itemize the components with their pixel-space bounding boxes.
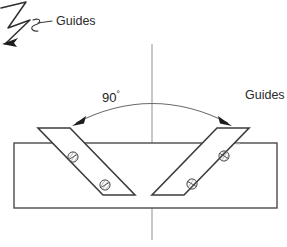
angle-label-value: 90 (102, 90, 116, 105)
diagram-canvas: 90° Guides Guides (0, 0, 287, 247)
angle-arc-arrowhead-right (218, 116, 232, 126)
angle-label: 90° (102, 89, 120, 105)
guides-leader-arrow-handdrawn (1, 2, 52, 47)
guide-right-screw-lower (187, 179, 197, 189)
technical-diagram: 90° Guides Guides (0, 0, 287, 247)
workpiece-rectangle (14, 143, 277, 208)
angle-arc-arrowhead-left (72, 116, 86, 126)
guide-left-screw-lower (100, 180, 110, 190)
leader-zigzag-stroke (1, 2, 30, 44)
angle-label-unit: ° (116, 89, 119, 99)
leader-squiggle (32, 19, 40, 31)
guides-label-right: Guides (245, 88, 285, 102)
guide-left-screw-upper (68, 152, 78, 162)
guides-label-left: Guides (56, 14, 96, 28)
guide-right-screw-upper (219, 151, 229, 161)
